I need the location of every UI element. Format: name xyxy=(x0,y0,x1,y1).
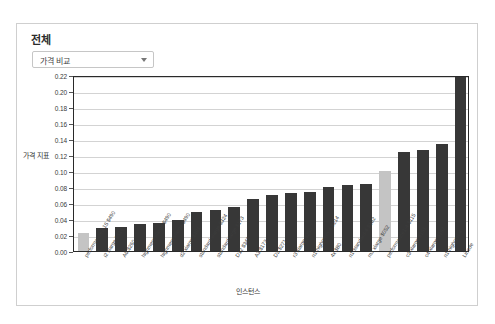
x-axis-title: 인스턴스 xyxy=(17,286,479,296)
y-axis-tick-mark xyxy=(69,156,73,157)
y-axis-tick-label: 0.02 xyxy=(45,233,67,240)
gridline xyxy=(74,125,468,126)
bar[interactable] xyxy=(455,76,467,251)
y-axis-tick-label: 0.04 xyxy=(45,217,67,224)
gridline xyxy=(74,109,468,110)
y-axis-tick-mark xyxy=(69,220,73,221)
y-axis-tick-label: 0.10 xyxy=(45,169,67,176)
y-axis-tick-mark xyxy=(69,236,73,237)
y-axis-tick-mark xyxy=(69,76,73,77)
y-axis-tick-label: 0.20 xyxy=(45,89,67,96)
y-axis-tick-label: 0.00 xyxy=(45,249,67,256)
y-axis-tick-label: 0.18 xyxy=(45,105,67,112)
y-axis-tick-label: 0.22 xyxy=(45,73,67,80)
clipped-header-text: ·· ····· · ··· · ···· ····· · · · ·· · xyxy=(0,0,495,15)
y-axis-tick-label: 0.12 xyxy=(45,153,67,160)
y-axis-tick-label: 0.14 xyxy=(45,137,67,144)
y-axis-tick-mark xyxy=(69,140,73,141)
gridline xyxy=(74,141,468,142)
bar[interactable] xyxy=(247,199,259,251)
y-axis-tick-mark xyxy=(69,108,73,109)
y-axis-tick-mark xyxy=(69,204,73,205)
y-axis-tick-label: 0.08 xyxy=(45,185,67,192)
y-axis-tick-label: 0.06 xyxy=(45,201,67,208)
y-axis-tick-mark xyxy=(69,172,73,173)
bar[interactable] xyxy=(342,185,354,251)
chart-card: 전체 가격 비교 가격 지표 0.000.020.040.060.080.100… xyxy=(16,23,478,306)
clipped-header-ghost: ·· ····· · ··· · ···· ····· · · · ·· · xyxy=(66,0,258,3)
bar[interactable] xyxy=(266,195,278,251)
y-axis-tick-label: 0.16 xyxy=(45,121,67,128)
y-axis-tick-mark xyxy=(69,92,73,93)
gridline xyxy=(74,77,468,78)
price-comparison-bar-chart: 가격 지표 0.000.020.040.060.080.100.120.140.… xyxy=(17,24,479,307)
y-axis-tick-mark xyxy=(69,252,73,253)
gridline xyxy=(74,93,468,94)
y-axis-tick-mark xyxy=(69,124,73,125)
y-axis-tick-mark xyxy=(69,188,73,189)
